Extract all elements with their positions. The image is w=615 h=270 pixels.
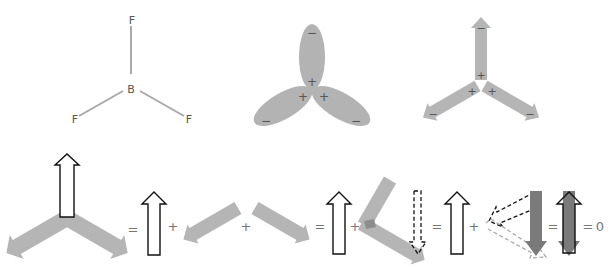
gray-arrow-lower-left [178,198,244,249]
vector-sum-construction [356,176,430,269]
op-equals-4: = [548,219,559,234]
result-zero: 0 [596,219,604,234]
dipole-sign-right-head: − [525,108,534,121]
op-plus-4: + [469,219,480,234]
atom-fluorine-top: F [129,14,135,27]
outline-arrow-up [55,154,79,217]
atom-fluorine-left: F [72,113,78,126]
outline-arrow-term-2 [327,192,351,254]
bf3-dipole-diagram: B F F F − + + + − − − + + + − − [0,0,615,270]
bond-left [79,91,123,116]
dashed-down-arrow [410,191,426,254]
bf3-structure: B F F F [72,14,192,126]
outline-arrow-term-3 [445,192,469,254]
dipole-sign-top-tail: + [476,69,485,82]
atom-fluorine-right: F [186,113,192,126]
gray-arrow-lower-right [250,198,316,249]
bond-dipoles: − + + + − − [418,17,544,126]
bond-right [140,91,184,116]
dipole-sign-left-head: − [428,108,437,121]
sign-right-outer: − [351,114,361,128]
op-equals-5: = [583,219,594,234]
orbital-lobes: − + + + − − [248,24,376,134]
op-equals-1: = [128,222,139,237]
outline-arrow-term-1 [142,192,166,255]
sign-top-inner: + [307,75,317,89]
dipole-sign-left-tail: + [467,85,476,98]
op-plus-1: + [168,219,179,234]
dark-arrow-down [525,191,547,256]
vector-equation: = + + = + = + [0,154,604,270]
sign-right-inner: + [319,90,329,104]
sign-left-outer: − [261,114,271,128]
op-equals-2: = [315,219,326,234]
term-resultant-y [0,154,135,265]
sign-left-inner: + [298,90,308,104]
sign-top-outer: − [307,26,317,40]
op-equals-3: = [432,219,443,234]
atom-boron: B [127,83,135,96]
dipole-sign-right-tail: + [487,85,496,98]
op-plus-2: + [241,219,252,234]
dipole-sign-top-head: − [476,22,485,35]
cancelling-arrows [557,191,581,256]
